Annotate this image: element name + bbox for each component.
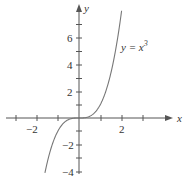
tick-label-y-neg2: −2 — [62, 139, 74, 151]
tick-label-y-2: 2 — [67, 86, 73, 98]
tick-label-y-6: 6 — [67, 32, 73, 44]
x-axis-label: x — [176, 112, 182, 124]
tick-label-y-neg4: −4 — [62, 166, 74, 176]
y-axis-arrow-icon — [76, 4, 82, 12]
cubic-plot: y x −2 2 6 4 2 −2 −4 y = x3 — [0, 0, 193, 176]
tick-label-x-neg2: −2 — [26, 123, 38, 135]
y-axis-label: y — [83, 2, 89, 14]
cubic-curve — [45, 11, 122, 173]
tick-label-x-2: 2 — [119, 123, 125, 135]
x-axis-arrow-icon — [165, 115, 173, 121]
tick-label-y-4: 4 — [67, 59, 73, 71]
curve-label: y = x3 — [120, 39, 148, 53]
